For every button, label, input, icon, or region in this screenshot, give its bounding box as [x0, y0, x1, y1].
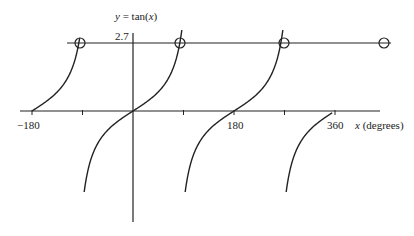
chart-title: y = tan(x)	[114, 10, 158, 23]
tan-branch	[286, 113, 332, 192]
y-value-label: 2.7	[115, 30, 129, 42]
x-tick-label-180: 180	[227, 119, 244, 131]
x-axis-label: x (degrees)	[354, 119, 404, 132]
tan-branch	[32, 38, 80, 111]
x-tick-label-neg180: −180	[17, 119, 40, 131]
x-tick-label-360: 360	[327, 119, 344, 131]
tan-chart: y = tan(x) 2.7 −180 180 360 x (degrees)	[0, 0, 414, 236]
